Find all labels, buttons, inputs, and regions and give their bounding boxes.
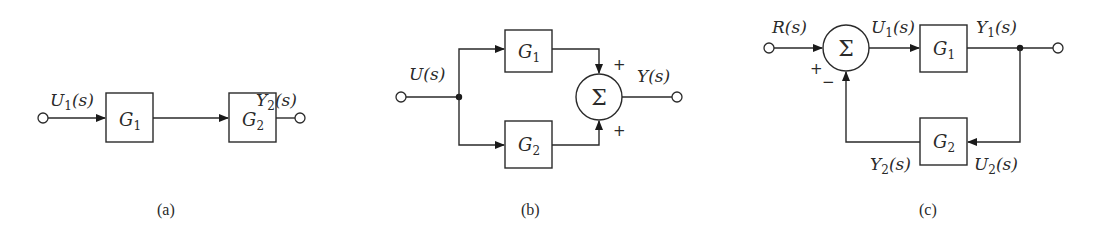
feedback-to-sum-wire: [846, 72, 920, 142]
panel-c-feedback: Σ + − G1 G2 R(s) U1(s) Y1(s) Y2(s) U2(s)…: [764, 17, 1063, 219]
sum-sign-top: +: [613, 56, 626, 74]
sum-sign-bottom: +: [613, 122, 626, 140]
input-terminal: [396, 92, 406, 102]
sigma-symbol: Σ: [591, 85, 607, 110]
u1-signal-label: U1(s): [871, 17, 915, 40]
y1-signal-label: Y1(s): [976, 17, 1017, 40]
output-terminal: [295, 113, 305, 123]
caption-b: (b): [521, 201, 540, 219]
output-terminal: [1053, 43, 1063, 53]
caption-c: (c): [919, 201, 937, 219]
g1-to-sum-wire: [552, 49, 599, 73]
sum-sign-plus: +: [810, 60, 823, 78]
input-signal-label: U(s): [409, 64, 445, 84]
reference-signal-label: R(s): [771, 17, 807, 37]
feedback-to-g2-wire: [968, 48, 1020, 142]
panel-a-series: G1 G2 U1(s) Y2(s) (a): [38, 90, 305, 219]
y2-signal-label: Y2(s): [870, 154, 911, 177]
output-signal-label: Y(s): [637, 66, 670, 86]
output-terminal: [672, 92, 682, 102]
caption-a: (a): [157, 201, 175, 219]
sigma-symbol: Σ: [838, 36, 854, 61]
upper-branch-wire: [459, 49, 504, 97]
panel-b-parallel: G1 G2 Σ + + U(s) Y(s) (b): [396, 30, 682, 219]
input-signal-label: U1(s): [50, 90, 94, 113]
lower-branch-wire: [459, 97, 504, 145]
output-signal-label: Y2(s): [256, 90, 297, 113]
input-terminal: [764, 43, 774, 53]
block-diagram-figure: G1 G2 U1(s) Y2(s) (a) G1 G2 Σ + + U(s) Y…: [0, 0, 1098, 242]
g2-to-sum-wire: [552, 121, 599, 145]
sum-sign-minus: −: [822, 73, 835, 91]
u2-signal-label: U2(s): [974, 154, 1018, 177]
input-terminal: [38, 113, 48, 123]
